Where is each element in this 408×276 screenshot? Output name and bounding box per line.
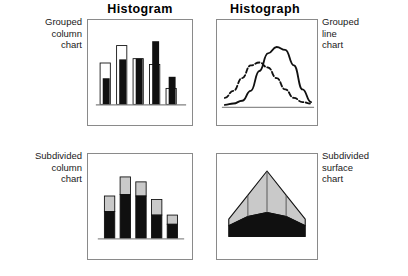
stack-upper-1 [104, 196, 114, 212]
panel-subdivided-surface-chart [216, 153, 318, 260]
caption-grouped-column-chart: Grouped column chart [8, 16, 82, 51]
stack-upper-4 [151, 200, 161, 216]
stack-lower-5 [167, 224, 177, 238]
panel-grouped-line-chart [216, 19, 318, 126]
panel-grouped-column-chart [87, 19, 193, 126]
stack-lower-4 [151, 215, 161, 238]
subdivided-surface-chart-graphic [217, 154, 317, 259]
caption-subdivided-surface-chart: Subdivided surface chart [322, 150, 404, 185]
grouped-line-chart-graphic [217, 20, 317, 125]
curve-dashed [225, 63, 311, 104]
stack-lower-1 [104, 212, 114, 239]
bar-black-1 [103, 78, 110, 104]
column-header-histograph: Histograph [212, 2, 318, 16]
subdivided-column-chart-graphic [88, 154, 192, 259]
bar-black-4 [152, 41, 159, 104]
caption-grouped-line-chart: Grouped line chart [322, 16, 402, 51]
stack-lower-2 [120, 195, 130, 239]
caption-subdivided-column-chart: Subdivided column chart [4, 150, 82, 185]
stack-upper-5 [167, 215, 177, 224]
grouped-column-chart-graphic [88, 20, 192, 125]
stack-lower-3 [136, 196, 146, 238]
curve-solid [225, 47, 311, 105]
bar-black-5 [169, 77, 176, 105]
column-header-histogram: Histogram [87, 2, 193, 16]
figure-root: Histogram Histograph Grouped column char… [0, 0, 408, 276]
bar-black-3 [136, 59, 143, 105]
panel-subdivided-column-chart [87, 153, 193, 260]
stack-upper-3 [136, 182, 146, 196]
bar-black-2 [119, 59, 126, 104]
stack-upper-2 [120, 177, 130, 195]
